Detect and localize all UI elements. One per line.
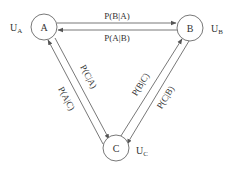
utility-a-label: UA — [10, 22, 22, 35]
node-c-label: C — [113, 143, 120, 154]
utility-b-label: UB — [211, 23, 223, 36]
node-b: B — [177, 15, 203, 41]
diagram-canvas: A B C UA UB UC P(B|A) P(A|B) P(A|C) P(C|… — [0, 0, 236, 172]
edge-label-b-given-a: P(B|A) — [104, 11, 129, 21]
node-a-label: A — [40, 22, 48, 33]
edge-label-c-given-b: P(C|B) — [155, 84, 177, 110]
edge-label-a-given-b: P(A|B) — [104, 33, 129, 43]
utility-c-label: UC — [136, 145, 148, 158]
edge-label-c-given-a: P(C|A) — [78, 63, 99, 90]
node-b-label: B — [187, 23, 194, 34]
node-a: A — [31, 14, 57, 40]
node-c: C — [103, 135, 129, 161]
edge-c-to-a — [48, 40, 103, 144]
